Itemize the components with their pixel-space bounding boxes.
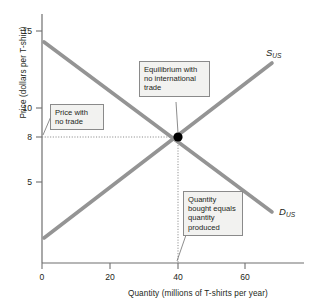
demand-curve-letter: D <box>279 206 286 217</box>
quantity-callout-line-4: produced <box>188 223 238 232</box>
y-axis-title: Price (dollars per T-shirt) <box>19 3 28 143</box>
equilibrium-callout-line-2: no international <box>144 74 205 83</box>
quantity-callout-line-3: quantity <box>188 213 238 222</box>
supply-curve-label: SUS <box>266 47 282 58</box>
price-callout-line-2: no trade <box>55 117 99 126</box>
y-tick-label-10: 10 <box>10 103 32 113</box>
supply-curve-subscript: US <box>272 52 281 59</box>
quantity-callout-line-1: Quantity <box>188 195 238 204</box>
demand-curve-subscript: US <box>286 211 295 218</box>
equilibrium-callout-line-3: trade <box>144 83 205 92</box>
equilibrium-callout-line-1: Equilibrium with <box>144 65 205 74</box>
price-with-no-trade-callout: Price with no trade <box>50 104 104 130</box>
equilibrium-callout: Equilibrium with no international trade <box>139 61 210 97</box>
x-tick-label-0: 0 <box>31 272 53 282</box>
price-callout-line-1: Price with <box>55 108 99 117</box>
equilibrium-point <box>173 132 182 141</box>
quantity-callout: Quantity bought equals quantity produced <box>183 191 243 236</box>
x-tick-label-40: 40 <box>167 272 189 282</box>
x-tick-label-20: 20 <box>99 272 121 282</box>
chart-canvas <box>0 0 309 306</box>
y-tick-label-5: 5 <box>10 177 32 187</box>
y-tick-label-8: 8 <box>10 132 32 142</box>
supply-demand-chart: Price (dollars per T-shirt) Quantity (mi… <box>0 0 309 306</box>
quantity-callout-line-2: bought equals <box>188 204 238 213</box>
x-axis-title: Quantity (millions of T-shirts per year) <box>128 289 268 298</box>
x-tick-label-60: 60 <box>234 272 256 282</box>
demand-curve-label: DUS <box>279 206 295 217</box>
y-tick-label-15: 15 <box>10 26 32 36</box>
equilibrium-callout-leader <box>176 102 178 133</box>
